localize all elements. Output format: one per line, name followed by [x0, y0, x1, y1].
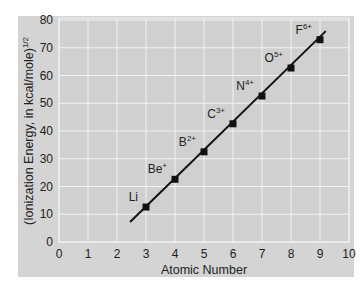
x-tick-label: 5: [201, 247, 208, 261]
data-point: [288, 65, 295, 72]
x-tick-label: 10: [342, 247, 356, 261]
x-tick-label: 2: [114, 247, 121, 261]
x-tick-label: 0: [56, 247, 63, 261]
data-point: [317, 36, 324, 43]
y-tick-label: 40: [40, 124, 54, 138]
y-tick-label: 10: [40, 207, 54, 221]
x-tick-label: 7: [259, 247, 266, 261]
y-tick-label: 20: [40, 180, 54, 194]
x-tick-label: 3: [143, 247, 150, 261]
y-tick-label: 80: [40, 13, 54, 27]
x-tick-label: 6: [230, 247, 237, 261]
y-axis-title: (Ionization Energy, in kcal/mole)1/2: [21, 36, 36, 225]
x-axis-title: Atomic Number: [161, 263, 247, 277]
y-tick-label: 60: [40, 69, 54, 83]
x-tick-label: 4: [172, 247, 179, 261]
data-point: [259, 93, 266, 100]
x-tick-label: 1: [85, 247, 92, 261]
y-tick-label: 70: [40, 41, 54, 55]
point-label: Li: [129, 190, 138, 204]
data-point: [230, 120, 237, 127]
data-point: [172, 176, 179, 183]
data-point: [201, 148, 208, 155]
y-tick-label: 50: [40, 96, 54, 110]
y-tick-label: 0: [46, 235, 53, 249]
data-point: [143, 204, 150, 211]
y-tick-label: 30: [40, 152, 54, 166]
x-tick-label: 8: [288, 247, 295, 261]
x-tick-label: 9: [317, 247, 324, 261]
chart: 01234567891001020304050607080LiBe+B2+C3+…: [0, 0, 364, 289]
